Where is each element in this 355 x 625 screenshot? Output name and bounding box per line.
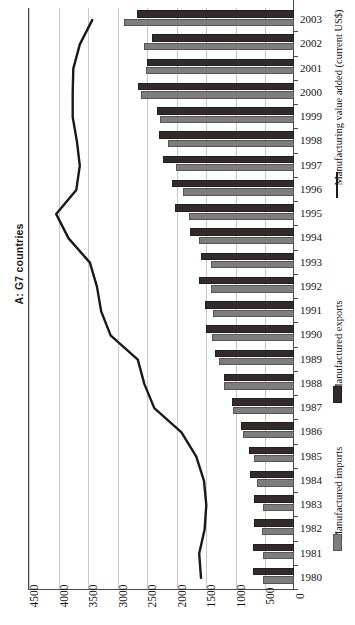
chart-title: A: G7 countries (13, 189, 25, 339)
legend-label-value-added: Manufacturing value added (current US$) (333, 46, 344, 186)
legend: Manufacturing value added (current US$) … (314, 0, 355, 580)
value-tick-3000: 3000 (117, 574, 129, 618)
value-tick-0: 0 (294, 574, 306, 618)
plot-area (28, 8, 294, 590)
value-tick-4500: 4500 (28, 574, 40, 618)
value-tick-3500: 3500 (87, 574, 99, 618)
legend-swatch-imports-icon (333, 534, 342, 551)
value-axis-tick-labels: 450040003500300025002000150010005000 (0, 596, 355, 625)
chart-figure: A: G7 countries 200320022001200019991998… (0, 0, 355, 625)
legend-swatch-exports-icon (333, 386, 342, 403)
line-series-manufacturing-value-added (29, 8, 295, 590)
value-tick-1500: 1500 (205, 574, 217, 618)
legend-swatch-line-icon (336, 172, 338, 198)
legend-item-value-added: Manufacturing value added (current US$) (314, 14, 355, 204)
value-tick-4000: 4000 (58, 574, 70, 618)
legend-item-exports: Manufactured exports (314, 286, 355, 416)
value-tick-1000: 1000 (235, 574, 247, 618)
legend-item-imports: Manufactured imports (314, 432, 355, 567)
value-tick-500: 500 (264, 574, 276, 618)
value-tick-2500: 2500 (146, 574, 158, 618)
value-tick-2000: 2000 (176, 574, 188, 618)
